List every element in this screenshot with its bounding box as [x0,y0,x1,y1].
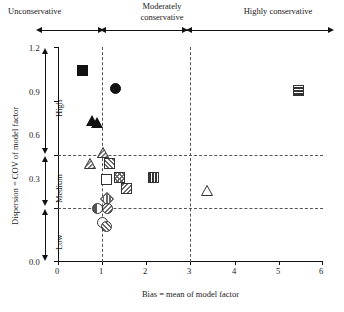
zone-label-moderately-line1: Moderately [117,2,207,11]
x-tick-3: 3 [187,266,191,276]
category-arrow-low [45,215,46,255]
data-point-square-open[interactable] [101,174,112,185]
data-point-triangle-hatch-1[interactable] [97,147,109,158]
category-arrow-medium-head-down [42,200,48,206]
x-tick-mark-2 [146,261,147,265]
category-arrow-high-head-up [42,48,48,54]
zone-label-moderately-line2: conservative [117,13,207,22]
y-tick-mark-0-9 [54,101,58,102]
y-axis-title: Dispersion = COV of model factor [11,107,20,225]
category-arrow-low-head-up [42,209,48,215]
y-tick-0-3: 0.3 [29,174,40,184]
zone-label-unconservative: Unconservative [8,7,61,16]
x-tick-2: 2 [143,266,147,276]
x-tick-mark-6 [322,261,323,265]
x-axis-title: Bias = mean of model factor [58,290,323,299]
x-tick-4: 4 [232,266,236,276]
x-tick-mark-4 [235,261,236,265]
y-tick-mark-0-0 [54,261,58,262]
data-point-square-hstripe[interactable] [293,85,304,96]
zone-arrow-highly-head-left [186,27,192,33]
category-arrow-high [45,54,46,148]
data-point-square-vstripe[interactable] [148,172,159,183]
category-arrow-medium [45,162,46,200]
chart-figure: Unconservative Moderately conservative H… [0,0,344,312]
x-tick-mark-0 [58,261,59,265]
plot-area [58,47,323,262]
zone-arrow-unconservative [42,30,104,31]
y-tick-0-0: 0.0 [29,257,40,267]
zone-arrow-unconservative-head-left [36,27,42,33]
zone-label-highly-conservative: Highly conservative [218,7,338,16]
x-tick-0: 0 [55,266,59,276]
x-tick-1: 1 [99,266,103,276]
x-tick-6: 6 [319,266,323,276]
zone-arrow-highly [192,30,332,31]
category-arrow-high-head-down [42,148,48,154]
category-arrow-medium-head-up [42,156,48,162]
data-point-circle-hatchA[interactable] [101,221,112,232]
y-tick-0-9: 0.9 [29,87,40,97]
data-point-triangle-hatch-2[interactable] [84,158,96,169]
zone-arrow-highly-head-right [328,27,334,33]
zone-arrow-moderately-head-left [100,27,106,33]
data-point-square-hatchA[interactable] [104,158,115,169]
y-tick-1-2: 1.2 [29,43,40,53]
data-point-square-filled[interactable] [77,65,88,76]
x-tick-mark-5 [279,261,280,265]
data-point-square-hatchB[interactable] [121,183,132,194]
data-point-triangle-filled-2[interactable] [91,117,103,128]
data-point-square-crosshatch[interactable] [114,172,125,183]
data-point-circle-hatchB[interactable] [102,203,113,214]
data-point-circle-filled[interactable] [110,83,121,94]
zone-arrow-moderately [106,30,188,31]
y-tick-0-6: 0.6 [29,130,40,140]
data-point-triangle-open[interactable] [201,185,213,196]
x-tick-5: 5 [276,266,280,276]
y-tick-mark-1-2 [54,47,58,48]
category-arrow-low-head-down [42,255,48,261]
